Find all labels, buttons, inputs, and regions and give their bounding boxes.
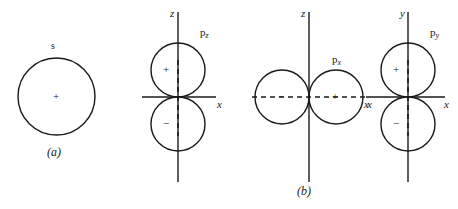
- px-orbital-label: px: [332, 54, 341, 67]
- figure-svg: [0, 0, 458, 209]
- py-minus-sign: −: [393, 118, 399, 129]
- py-label-subscript: y: [436, 31, 440, 40]
- pz-x-axis-label: x: [217, 99, 222, 110]
- py-plus-sign: +: [393, 64, 399, 75]
- py-x-axis-label-right: x: [444, 99, 449, 110]
- orbital-shapes-figure: s + (a) z pz + − x z px − + x (b) y py +…: [0, 0, 458, 209]
- pz-z-axis-label: z: [170, 8, 174, 19]
- px-z-axis-label: z: [301, 8, 305, 19]
- pz-label-subscript: z: [206, 31, 209, 40]
- py-x-axis-label-left: x: [364, 99, 369, 110]
- pz-plus-sign: +: [163, 64, 169, 75]
- pz-minus-sign: −: [163, 118, 169, 129]
- caption-a: (a): [47, 146, 61, 158]
- s-orbital-plus-sign: +: [53, 91, 59, 102]
- px-plus-sign: +: [332, 91, 338, 102]
- caption-b: (b): [297, 185, 311, 197]
- pz-orbital-label: pz: [200, 27, 209, 40]
- s-orbital-label: s: [51, 41, 55, 51]
- px-label-subscript: x: [338, 58, 342, 67]
- px-orbital-group: [252, 12, 366, 182]
- py-y-axis-label: y: [400, 8, 405, 19]
- px-minus-sign: −: [278, 91, 284, 102]
- py-orbital-label: py: [430, 27, 439, 40]
